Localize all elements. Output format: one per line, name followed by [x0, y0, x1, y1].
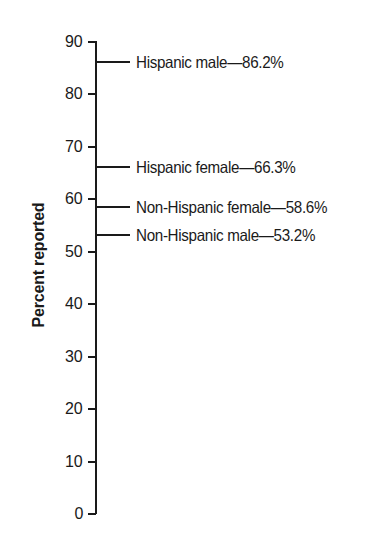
y-tick-90 — [88, 41, 96, 43]
y-tick-40 — [88, 303, 96, 305]
data-point-hispanic-male: Hispanic male—86.2% — [96, 53, 296, 71]
leader-line-non-hispanic-female — [96, 206, 130, 208]
y-tick-50 — [88, 251, 96, 253]
leader-line-hispanic-male — [96, 61, 130, 63]
data-label-non-hispanic-female: Non-Hispanic female—58.6% — [136, 198, 327, 216]
y-tick-10 — [88, 461, 96, 463]
y-tick-20 — [88, 408, 96, 410]
data-label-non-hispanic-male: Non-Hispanic male—53.2% — [136, 226, 315, 244]
y-tick-0 — [88, 513, 96, 515]
y-tick-80 — [88, 93, 96, 95]
y-tick-label-10: 10 — [66, 453, 83, 470]
y-tick-60 — [88, 198, 96, 200]
data-point-hispanic-female: Hispanic female—66.3% — [96, 158, 309, 176]
leader-line-hispanic-female — [96, 166, 130, 168]
data-point-non-hispanic-male: Non-Hispanic male—53.2% — [96, 226, 331, 244]
y-tick-label-70: 70 — [66, 138, 83, 155]
leader-line-non-hispanic-male — [96, 234, 130, 236]
y-tick-label-0: 0 — [74, 505, 83, 522]
y-tick-label-20: 20 — [66, 400, 83, 417]
y-tick-70 — [88, 146, 96, 148]
y-tick-30 — [88, 356, 96, 358]
y-axis-line — [95, 41, 97, 514]
y-tick-label-60: 60 — [66, 190, 83, 207]
y-tick-label-80: 80 — [66, 85, 83, 102]
y-tick-label-40: 40 — [66, 295, 83, 312]
y-axis-title: Percent reported — [30, 170, 48, 360]
data-label-hispanic-male: Hispanic male—86.2% — [136, 53, 283, 71]
chart-figure: Percent reported 90 80 70 60 50 40 30 20… — [0, 0, 377, 546]
y-tick-label-90: 90 — [66, 33, 83, 50]
data-label-hispanic-female: Hispanic female—66.3% — [136, 158, 295, 176]
y-tick-label-50: 50 — [66, 243, 83, 260]
data-point-non-hispanic-female: Non-Hispanic female—58.6% — [96, 198, 344, 216]
y-tick-label-30: 30 — [66, 348, 83, 365]
